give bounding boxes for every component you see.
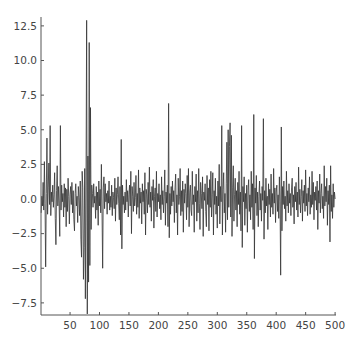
x-tick-label: 500	[325, 319, 345, 331]
y-tick-label: 0.0	[20, 193, 37, 205]
y-tick-label: −5.0	[12, 262, 38, 274]
y-tick-label: 7.5	[20, 89, 37, 101]
x-tick-label: 300	[207, 319, 227, 331]
y-tick-label: 2.5	[20, 158, 37, 170]
x-tick-label: 50	[63, 319, 76, 331]
x-tick-label: 150	[119, 319, 139, 331]
series-path	[41, 20, 335, 314]
y-tick-label: 12.5	[14, 20, 37, 32]
x-tick-label: 250	[178, 319, 198, 331]
y-tick-label: 5.0	[20, 124, 37, 136]
data-line	[41, 20, 335, 314]
y-tick-label: −2.5	[12, 227, 38, 239]
x-tick-label: 450	[296, 319, 316, 331]
y-tick-label: −7.5	[12, 297, 38, 309]
y-tick-label: 10.0	[14, 54, 37, 66]
x-tick-label: 400	[266, 319, 286, 331]
y-axis-ticks: 12.510.07.55.02.50.0−2.5−5.0−7.5	[12, 20, 45, 309]
x-tick-label: 200	[148, 319, 168, 331]
x-tick-label: 350	[237, 319, 257, 331]
line-chart: 12.510.07.55.02.50.0−2.5−5.0−7.5 5010015…	[0, 0, 357, 347]
x-tick-label: 100	[89, 319, 109, 331]
